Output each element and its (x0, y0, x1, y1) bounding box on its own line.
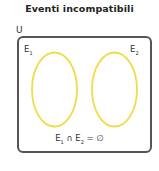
set-e2-ellipse (92, 53, 137, 127)
set-e1-label: E1 (24, 44, 33, 56)
intersection-formula: E1 ∩ E2 = ∅ (0, 133, 159, 145)
venn-ellipses (0, 0, 159, 171)
set-e1-ellipse (32, 53, 77, 127)
set-e2-label: E2 (130, 44, 139, 56)
